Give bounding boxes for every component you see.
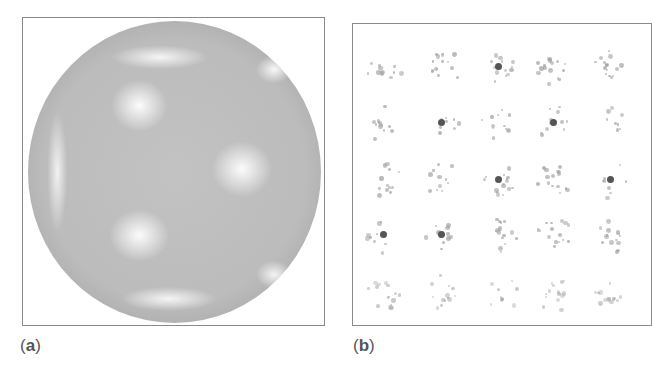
panel-b-label: (b): [353, 336, 375, 356]
pattern-cell: [478, 102, 518, 142]
pattern-cell: [478, 214, 518, 254]
pattern-cell: [363, 214, 403, 254]
sphere-intensity-map: [28, 21, 321, 323]
pattern-cell: [533, 214, 573, 254]
pattern-cell: [590, 159, 630, 199]
panel-a-frame: [22, 17, 325, 326]
pattern-cell: [363, 159, 403, 199]
pattern-cell: [533, 159, 573, 199]
pattern-cell: [363, 272, 403, 312]
pattern-cell: [421, 214, 461, 254]
pattern-cell: [421, 102, 461, 142]
pattern-cell: [421, 159, 461, 199]
pattern-grid: [353, 24, 651, 325]
pattern-cell: [590, 46, 630, 86]
pattern-cell: [363, 102, 403, 142]
pattern-cell: [533, 272, 573, 312]
pattern-cell: [478, 46, 518, 86]
pattern-cell: [533, 46, 573, 86]
panel-b-frame: [352, 23, 652, 326]
pattern-cell: [478, 159, 518, 199]
pattern-cell: [421, 272, 461, 312]
pattern-cell: [421, 46, 461, 86]
pattern-cell: [533, 102, 573, 142]
pattern-cell: [590, 214, 630, 254]
pattern-cell: [590, 102, 630, 142]
pattern-cell: [478, 272, 518, 312]
pattern-cell: [363, 46, 403, 86]
pattern-cell: [590, 272, 630, 312]
panel-a-label: (a): [20, 336, 41, 356]
